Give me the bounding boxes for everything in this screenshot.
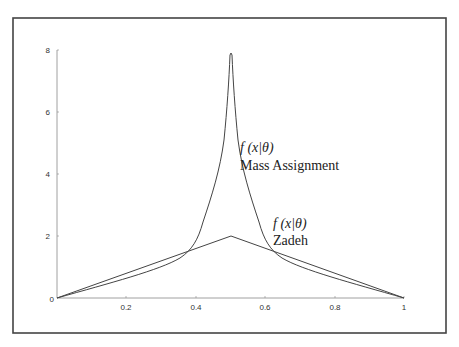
chart: 8 6 4 2 0 0.2 0.4 0.6 0.8 1 f (x|θ) Mass… bbox=[0, 0, 459, 347]
annotation-mass-math: f (x|θ) bbox=[240, 140, 274, 156]
y-tick-label-0: 0 bbox=[50, 295, 55, 304]
annotation-mass-text: Mass Assignment bbox=[240, 158, 339, 173]
x-tick-label-0.4: 0.4 bbox=[190, 303, 202, 312]
zadeh-curve bbox=[57, 236, 404, 298]
mass-assignment-curve bbox=[57, 53, 404, 298]
annotation-zadeh-math: f (x|θ) bbox=[273, 216, 307, 232]
y-tick-label-4: 4 bbox=[46, 170, 51, 179]
x-tick-label-1: 1 bbox=[402, 303, 407, 312]
y-tick-label-2: 2 bbox=[46, 232, 51, 241]
x-tick-label-0.8: 0.8 bbox=[329, 303, 341, 312]
y-tick-label-8: 8 bbox=[46, 46, 51, 55]
x-tick-label-0.2: 0.2 bbox=[120, 303, 132, 312]
annotation-zadeh-text: Zadeh bbox=[273, 233, 308, 248]
y-tick-label-6: 6 bbox=[46, 108, 51, 117]
x-tick-label-0.6: 0.6 bbox=[259, 303, 271, 312]
